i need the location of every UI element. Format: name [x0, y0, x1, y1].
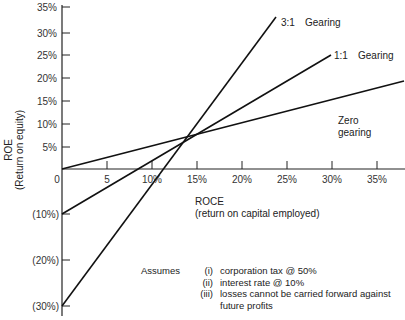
svg-text:30%: 30%: [37, 28, 57, 39]
svg-text:(20%): (20%): [32, 255, 59, 266]
x-axis-title: ROCE (return on capital employed): [195, 196, 320, 219]
svg-text:ROCE: ROCE: [195, 196, 224, 207]
svg-text:0: 0: [54, 174, 60, 185]
label-1-1-gearing: 1:1 Gearing: [334, 50, 394, 61]
svg-text:25%: 25%: [37, 50, 57, 61]
svg-text:5%: 5%: [43, 142, 58, 153]
y-ticks: [62, 7, 70, 306]
svg-text:(10%): (10%): [32, 209, 59, 220]
y-tick-labels: 35% 30% 25% 20% 15% 10% 5% (10%) (20%) (…: [32, 2, 59, 312]
svg-text:(30%): (30%): [32, 301, 59, 312]
svg-text:5: 5: [104, 174, 110, 185]
svg-text:20%: 20%: [232, 174, 252, 185]
svg-text:(Return on equity): (Return on equity): [14, 110, 25, 190]
svg-text:15%: 15%: [37, 96, 57, 107]
svg-text:20%: 20%: [37, 73, 57, 84]
svg-text:(return on capital employed): (return on capital employed): [195, 208, 320, 219]
svg-text:1:1: 1:1: [334, 50, 348, 61]
assumption-3: losses cannot be carried forward against: [220, 288, 391, 300]
svg-text:35%: 35%: [37, 2, 57, 13]
x-tick-labels: 0 5 10% 15% 20% 25% 30% 35%: [54, 174, 387, 185]
svg-text:Zero: Zero: [338, 115, 359, 126]
svg-text:30%: 30%: [322, 174, 342, 185]
assumption-1: corporation tax @ 50%: [220, 265, 317, 277]
x-ticks: [107, 161, 377, 169]
label-zero-gearing: Zero gearing: [338, 115, 371, 138]
svg-text:ROE: ROE: [3, 139, 14, 161]
svg-text:25%: 25%: [277, 174, 297, 185]
y-axis-title: ROE (Return on equity): [3, 110, 25, 190]
assumptions-note: Assumes (i) corporation tax @ 50% (ii) i…: [141, 265, 391, 311]
svg-text:Gearing: Gearing: [358, 50, 394, 61]
svg-text:15%: 15%: [187, 174, 207, 185]
svg-text:3:1: 3:1: [281, 17, 295, 28]
assumption-2: interest rate @ 10%: [220, 277, 304, 289]
series-1-1-gearing: [62, 55, 331, 214]
svg-text:10%: 10%: [37, 119, 57, 130]
assumption-3-cont: future profits: [220, 300, 273, 312]
svg-text:gearing: gearing: [338, 127, 371, 138]
svg-text:Gearing: Gearing: [305, 17, 341, 28]
svg-text:35%: 35%: [367, 174, 387, 185]
assumes-label: Assumes: [141, 265, 194, 277]
label-3-1-gearing: 3:1 Gearing: [281, 17, 341, 28]
